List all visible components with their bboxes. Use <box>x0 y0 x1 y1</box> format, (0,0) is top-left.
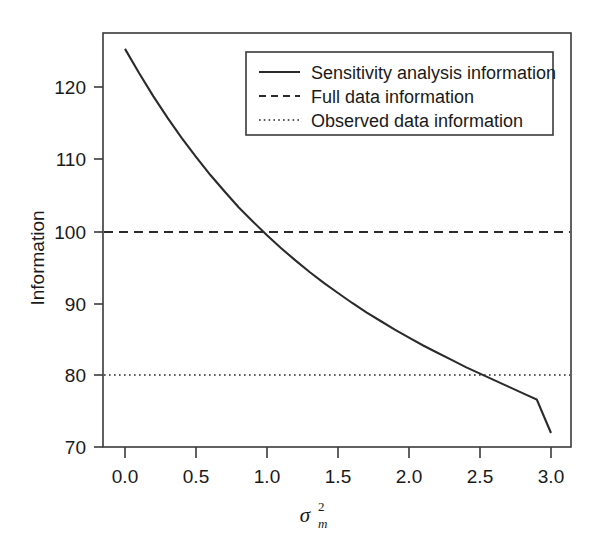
x-tick-label-2-5: 2.5 <box>467 466 493 487</box>
x-tick-label-2-0: 2.0 <box>396 466 422 487</box>
y-tick-label-70: 70 <box>65 437 86 458</box>
x-axis-title-subscript: m <box>318 516 327 531</box>
information-sensitivity-chart: 120 110 100 90 80 70 0.0 0.5 1.0 1.5 2.0… <box>0 0 600 547</box>
y-tick-label-100: 100 <box>54 222 86 243</box>
x-tick-label-0-0: 0.0 <box>112 466 138 487</box>
x-tick-label-3-0: 3.0 <box>538 466 564 487</box>
x-tick-label-1-0: 1.0 <box>254 466 280 487</box>
x-axis-title-superscript: 2 <box>318 499 325 514</box>
x-tick-label-1-5: 1.5 <box>325 466 351 487</box>
legend-label-observed-data-information: Observed data information <box>311 111 523 131</box>
y-tick-label-120: 120 <box>54 77 86 98</box>
x-axis-title-symbol: σ <box>300 503 312 527</box>
legend-label-sensitivity-analysis-information: Sensitivity analysis information <box>311 63 556 83</box>
chart-page: 120 110 100 90 80 70 0.0 0.5 1.0 1.5 2.0… <box>0 0 600 547</box>
y-axis-title: Information <box>27 210 48 305</box>
y-tick-label-80: 80 <box>65 365 86 386</box>
y-axis-ticks <box>94 87 103 447</box>
legend: Sensitivity analysis information Full da… <box>246 52 556 135</box>
y-tick-label-110: 110 <box>56 149 86 170</box>
x-tick-label-0-5: 0.5 <box>183 466 209 487</box>
y-tick-label-90: 90 <box>65 294 86 315</box>
x-axis-title: σ 2 m <box>300 499 328 531</box>
x-axis-ticks <box>125 447 551 458</box>
legend-label-full-data-information: Full data information <box>311 87 474 107</box>
